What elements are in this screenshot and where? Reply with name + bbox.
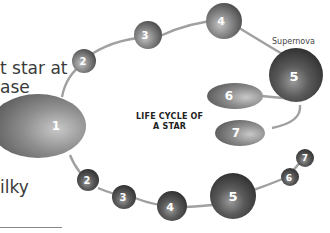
stage-7-label: 7	[232, 126, 240, 140]
side-text-line3: ilky	[0, 178, 29, 197]
diagram-title: LIFE CYCLE OF A STAR	[136, 112, 203, 132]
lower-stage-2-label: 2	[84, 175, 91, 186]
stage-1-label: 1	[52, 119, 60, 133]
lower-stage-4-label: 4	[166, 201, 174, 214]
stage-5-label: 5	[289, 69, 298, 84]
diagram-title-line1: LIFE CYCLE OF	[136, 112, 203, 122]
stage-6-ellipse	[207, 83, 263, 109]
lower-stage-3-label: 3	[120, 192, 127, 203]
side-text-line1: t star at	[0, 59, 68, 78]
side-text-line2: ase	[0, 78, 30, 97]
lower-stage-7-label: 7	[302, 153, 308, 163]
stage-6-label: 6	[225, 89, 233, 103]
diagram-title-line2: A STAR	[136, 122, 203, 132]
divider-line	[0, 227, 62, 228]
stage-4-label: 4	[217, 15, 225, 28]
lower-stage-5-label: 5	[228, 189, 237, 204]
stage-1-ellipse	[0, 94, 86, 158]
star-life-cycle-diagram: 1 2 3 4 5 6 7 2 3 4 5 6 7 LIFE CYCLE OF …	[0, 0, 330, 233]
stage-3-label: 3	[142, 30, 149, 41]
stage-2-label: 2	[80, 56, 87, 67]
lower-stage-6-label: 6	[286, 173, 292, 183]
supernova-annotation: Supernova	[272, 37, 315, 46]
